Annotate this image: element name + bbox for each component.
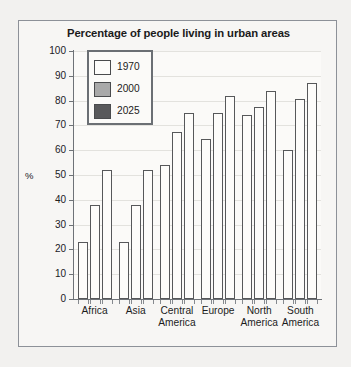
x-axis-tick bbox=[213, 300, 214, 304]
legend-swatch-1970 bbox=[94, 60, 111, 75]
x-axis-tick bbox=[194, 300, 195, 304]
bar bbox=[307, 83, 317, 299]
x-axis-tick bbox=[160, 300, 161, 304]
x-axis-tick bbox=[143, 300, 144, 304]
x-axis-tick bbox=[266, 300, 267, 304]
legend-label-2000: 2000 bbox=[117, 84, 140, 94]
x-axis-tick bbox=[293, 300, 294, 304]
bar bbox=[172, 132, 182, 299]
y-axis-tick bbox=[69, 249, 73, 250]
x-axis-tick bbox=[172, 300, 173, 304]
bar bbox=[283, 150, 293, 299]
bar bbox=[78, 242, 88, 299]
category-label-line-2: America bbox=[272, 317, 329, 329]
chart-frame: Percentage of people living in urban are… bbox=[18, 20, 337, 347]
x-axis-tick bbox=[295, 300, 296, 304]
bar bbox=[266, 91, 276, 299]
y-axis-tick bbox=[69, 274, 73, 275]
x-axis-tick bbox=[119, 300, 120, 304]
y-axis-tick-label: 70 bbox=[19, 120, 66, 130]
legend-label-2025: 2025 bbox=[117, 106, 140, 116]
x-axis-tick bbox=[182, 300, 183, 304]
x-axis-line bbox=[73, 299, 322, 300]
scanned-page: Percentage of people living in urban are… bbox=[0, 0, 351, 367]
y-axis-tick-label: 30 bbox=[19, 220, 66, 230]
x-axis-tick bbox=[184, 300, 185, 304]
legend-swatch-2000 bbox=[94, 82, 111, 97]
x-axis-tick bbox=[235, 300, 236, 304]
x-axis-tick bbox=[201, 300, 202, 304]
category-label-line-1: Europe bbox=[202, 305, 235, 316]
x-axis-tick bbox=[90, 300, 91, 304]
chart-legend: 197020002025 bbox=[87, 50, 153, 125]
x-axis-category-label: SouthAmerica bbox=[272, 305, 329, 328]
y-axis-tick-label: 40 bbox=[19, 195, 66, 205]
bar bbox=[184, 113, 194, 299]
y-axis-tick-label: 80 bbox=[19, 96, 66, 106]
y-axis-tick-label: 90 bbox=[19, 71, 66, 81]
x-axis-tick bbox=[112, 300, 113, 304]
y-axis-title: % bbox=[25, 170, 33, 181]
y-axis-tick bbox=[69, 101, 73, 102]
category-label-line-2: America bbox=[148, 317, 205, 329]
x-axis-tick bbox=[153, 300, 154, 304]
bar bbox=[225, 96, 235, 299]
x-axis-tick bbox=[102, 300, 103, 304]
y-axis-tick-label: 100 bbox=[19, 46, 66, 56]
category-label-line-1: Africa bbox=[82, 305, 108, 316]
category-label-line-1: South bbox=[287, 305, 314, 316]
y-axis-tick-label: 10 bbox=[19, 269, 66, 279]
bar bbox=[213, 113, 223, 299]
legend-swatch-2025 bbox=[94, 104, 111, 119]
y-axis-tick bbox=[69, 200, 73, 201]
legend-item-2000: 2000 bbox=[89, 78, 151, 100]
bar bbox=[143, 170, 153, 299]
bar bbox=[201, 139, 211, 299]
bar bbox=[160, 165, 170, 299]
y-axis-tick-label: 0 bbox=[19, 294, 66, 304]
x-axis-tick bbox=[307, 300, 308, 304]
x-axis-tick bbox=[211, 300, 212, 304]
legend-item-1970: 1970 bbox=[89, 56, 151, 78]
y-axis-tick-label: 60 bbox=[19, 145, 66, 155]
y-axis-tick bbox=[69, 175, 73, 176]
bar bbox=[295, 99, 305, 299]
category-label-line-1: North bbox=[247, 305, 272, 316]
x-axis-tick bbox=[242, 300, 243, 304]
x-axis-tick bbox=[88, 300, 89, 304]
category-label-line-1: Central bbox=[160, 305, 193, 316]
x-axis-tick bbox=[78, 300, 79, 304]
bar bbox=[242, 115, 252, 299]
x-axis-tick bbox=[100, 300, 101, 304]
y-axis-tick bbox=[69, 225, 73, 226]
bar bbox=[131, 205, 141, 299]
bar bbox=[119, 242, 129, 299]
category-label-line-1: Asia bbox=[126, 305, 146, 316]
chart-title: Percentage of people living in urban are… bbox=[19, 27, 338, 39]
y-axis-tick bbox=[69, 76, 73, 77]
y-axis-tick bbox=[69, 51, 73, 52]
bar bbox=[254, 107, 264, 299]
x-axis-tick bbox=[131, 300, 132, 304]
y-axis-line bbox=[73, 50, 74, 300]
y-axis-tick bbox=[69, 299, 73, 300]
legend-item-2025: 2025 bbox=[89, 100, 151, 122]
x-axis-tick bbox=[141, 300, 142, 304]
x-axis-tick bbox=[252, 300, 253, 304]
x-axis-tick bbox=[305, 300, 306, 304]
x-axis-tick bbox=[254, 300, 255, 304]
legend-label-1970: 1970 bbox=[117, 62, 140, 72]
x-axis-tick bbox=[276, 300, 277, 304]
y-axis-tick bbox=[69, 125, 73, 126]
x-axis-tick bbox=[225, 300, 226, 304]
y-axis-tick-label: 20 bbox=[19, 244, 66, 254]
bar bbox=[102, 170, 112, 299]
x-axis-tick bbox=[170, 300, 171, 304]
x-axis-tick bbox=[223, 300, 224, 304]
gridline bbox=[74, 125, 321, 126]
y-axis-tick bbox=[69, 150, 73, 151]
x-axis-tick bbox=[283, 300, 284, 304]
bar bbox=[90, 205, 100, 299]
x-axis-tick bbox=[317, 300, 318, 304]
x-axis-tick bbox=[129, 300, 130, 304]
